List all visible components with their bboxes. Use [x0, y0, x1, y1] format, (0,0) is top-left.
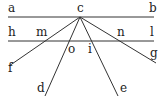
label-d: d [37, 81, 45, 95]
label-h: h [8, 25, 16, 39]
label-i: i [88, 42, 92, 56]
label-m: m [36, 25, 48, 39]
label-b: b [149, 1, 157, 15]
label-g: g [150, 46, 158, 60]
label-a: a [8, 1, 15, 15]
label-n: n [117, 25, 125, 39]
label-e: e [120, 81, 127, 95]
label-o: o [68, 42, 75, 56]
label-c: c [77, 1, 84, 15]
label-l: l [150, 25, 154, 39]
geometry-diagram: a b c h m n l o i f g d e [0, 0, 166, 101]
